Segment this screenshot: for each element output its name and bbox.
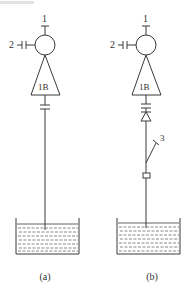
circle-head: [35, 35, 55, 55]
circle-head: [136, 35, 156, 55]
label-body-1B: 1B: [38, 82, 49, 92]
panel-b: 1 2 1B 3: [110, 13, 180, 283]
label-body-1B: 1B: [139, 82, 150, 92]
switch-contact: [153, 140, 159, 145]
caption-a: (a): [39, 271, 50, 283]
diagram-canvas: 1 2 1B (a) 1: [0, 0, 189, 294]
diode-triangle: [141, 112, 151, 121]
liquid-fill: [18, 228, 78, 251]
label-switch-3: 3: [160, 133, 165, 143]
label-terminal-1: 1: [42, 13, 47, 24]
panel-a: 1 2 1B (a): [9, 13, 79, 283]
label-terminal-1: 1: [143, 13, 148, 24]
cropped-caption-fragment: [0, 1, 34, 4]
switch-blade: [146, 143, 156, 163]
resistor: [143, 173, 150, 178]
label-terminal-2: 2: [110, 39, 115, 50]
label-terminal-2: 2: [9, 39, 14, 50]
liquid-fill: [119, 227, 179, 251]
caption-b: (b): [146, 271, 158, 283]
